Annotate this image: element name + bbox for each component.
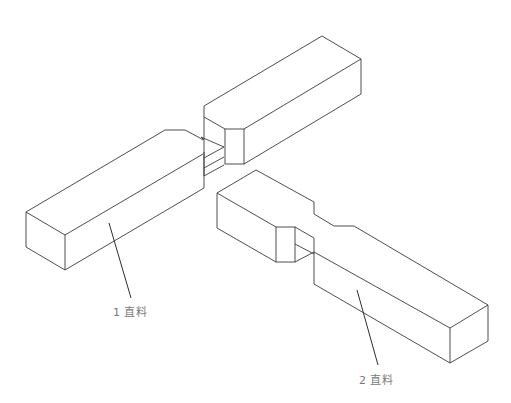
part-1-upper-piece bbox=[201, 36, 361, 176]
leader-line-part-1 bbox=[109, 223, 131, 298]
part-2-timber bbox=[217, 170, 488, 363]
part-1-label: 1 直料 bbox=[113, 303, 148, 319]
joinery-drawing bbox=[0, 0, 511, 403]
part-1-timber bbox=[26, 130, 224, 270]
part-2-label: 2 直料 bbox=[359, 371, 394, 387]
leader-line-part-2 bbox=[357, 290, 378, 365]
